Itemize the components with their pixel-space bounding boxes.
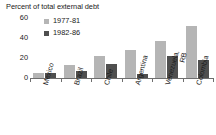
x-axis-tick — [122, 79, 123, 82]
x-axis-tick — [213, 79, 214, 82]
legend-item-1982-86: 1982-86 — [44, 28, 80, 38]
x-axis-category-label: Chile — [103, 68, 115, 86]
x-axis-tick — [152, 79, 153, 82]
y-axis-tick-label: 40 — [2, 34, 28, 41]
y-axis: 0204060 — [0, 0, 28, 135]
bar — [125, 50, 136, 78]
legend-label-1982-86: 1982-86 — [53, 29, 80, 36]
legend-label-1977-81: 1977-81 — [53, 17, 80, 24]
y-axis-tick-label: 0 — [2, 74, 28, 81]
y-axis-tick-label: 60 — [2, 14, 28, 21]
legend-swatch-1977-81 — [44, 19, 49, 24]
x-axis-tick — [183, 79, 184, 82]
legend-swatch-1982-86 — [44, 31, 49, 36]
bar — [155, 41, 166, 78]
x-axis-tick — [61, 79, 62, 82]
x-axis-tick — [30, 79, 31, 82]
chart-legend: 1977-81 1982-86 — [44, 16, 80, 40]
x-axis-tick — [91, 79, 92, 82]
y-axis-tick-label: 20 — [2, 54, 28, 61]
bar-chart-figure: Percent of total external debt 0204060 1… — [0, 0, 216, 135]
legend-item-1977-81: 1977-81 — [44, 16, 80, 26]
